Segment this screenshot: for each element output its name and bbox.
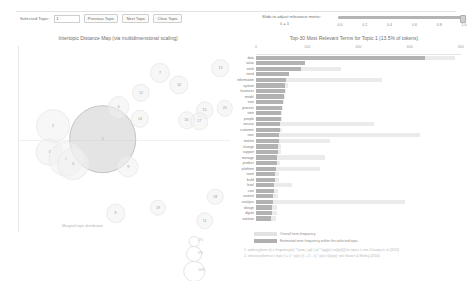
term-label[interactable]: design bbox=[234, 206, 254, 210]
topic-frequency-bar bbox=[256, 56, 425, 60]
topic-frequency-bar bbox=[256, 144, 278, 148]
topic-bubble-label-7: 7 bbox=[159, 71, 161, 75]
topic-frequency-bar bbox=[256, 83, 285, 87]
size-legend-label-10%: 10% bbox=[198, 268, 205, 272]
topic-frequency-bar bbox=[256, 106, 282, 110]
term-label[interactable]: customer bbox=[234, 128, 254, 132]
next-topic-button[interactable]: Next Topic bbox=[122, 14, 149, 23]
bar-axis-tick: 800 bbox=[458, 45, 464, 49]
topic-controls: Selected Topic: Previous Topic Next Topi… bbox=[20, 14, 182, 23]
term-label[interactable]: system bbox=[234, 84, 254, 88]
slider-tick: 0.0 bbox=[338, 23, 343, 27]
term-label[interactable]: model bbox=[234, 95, 254, 99]
slider-tick: 0.2 bbox=[362, 23, 367, 27]
term-label[interactable]: user bbox=[234, 133, 254, 137]
footnote-relevance: 2. relevance(term w | topic t) = λ * p(w… bbox=[244, 254, 380, 258]
topic-frequency-bar bbox=[256, 161, 277, 165]
term-label[interactable]: team bbox=[234, 172, 254, 176]
term-label[interactable]: solution bbox=[234, 217, 254, 221]
term-label[interactable]: process bbox=[234, 106, 254, 110]
bar-row[interactable]: solution bbox=[234, 216, 472, 222]
term-label[interactable]: service bbox=[234, 122, 254, 126]
topic-frequency-bar bbox=[256, 200, 273, 204]
topic-frequency-bar bbox=[256, 155, 277, 159]
term-label[interactable]: content bbox=[234, 194, 254, 198]
topic-bubble-label-9: 9 bbox=[127, 165, 129, 169]
topic-frequency-bar bbox=[256, 117, 281, 121]
overall-frequency-bar bbox=[256, 133, 420, 137]
topic-bubble-label-2: 2 bbox=[52, 124, 54, 128]
relevance-slider-label: Slide to adjust relevance metric: bbox=[262, 14, 321, 19]
term-label[interactable]: digital bbox=[234, 211, 254, 215]
legend-overall: Overall term frequency bbox=[254, 232, 315, 236]
topic-frequency-label: Estimated term frequency within the sele… bbox=[280, 239, 358, 243]
topic-frequency-bar bbox=[256, 172, 275, 176]
topic-frequency-swatch bbox=[254, 239, 277, 243]
term-label[interactable]: value bbox=[234, 61, 254, 65]
term-label[interactable]: need bbox=[234, 72, 254, 76]
term-label[interactable]: support bbox=[234, 150, 254, 154]
relevance-slider-track[interactable] bbox=[338, 16, 462, 19]
topic-bubble-label-17: 17 bbox=[197, 119, 201, 123]
term-label[interactable]: business bbox=[234, 89, 254, 93]
slider-tick-labels: 0.00.20.40.60.81.0 bbox=[336, 23, 464, 31]
topic-bubble-label-10: 10 bbox=[177, 83, 181, 87]
topic-frequency-bar bbox=[256, 100, 283, 104]
topic-frequency-bar bbox=[256, 183, 274, 187]
slider-tick: 0.6 bbox=[412, 23, 417, 27]
topic-bubble-label-14: 14 bbox=[138, 117, 142, 121]
topic-bubble-label-12: 12 bbox=[139, 91, 143, 95]
term-label[interactable]: change bbox=[234, 145, 254, 149]
intertopic-map-title: Intertopic Distance Map (via multidimens… bbox=[0, 35, 236, 41]
topic-bubble-label-1: 1 bbox=[102, 137, 104, 141]
topic-frequency-bar bbox=[256, 194, 273, 198]
marginal-topic-distribution-label: Marginal topic distribution bbox=[62, 224, 103, 228]
top-terms-barchart: 0200400600800 datavalueworkneedinformati… bbox=[234, 44, 472, 234]
topic-frequency-bar bbox=[256, 94, 284, 98]
bar-axis-tick: 200 bbox=[304, 45, 310, 49]
overall-frequency-label: Overall term frequency bbox=[280, 232, 315, 236]
topic-frequency-bar bbox=[256, 78, 286, 82]
topic-frequency-bar bbox=[256, 67, 301, 71]
term-label[interactable]: analysis bbox=[234, 200, 254, 204]
term-label[interactable]: work bbox=[234, 67, 254, 71]
topic-bubble-label-13: 13 bbox=[219, 66, 223, 70]
topic-frequency-bar bbox=[256, 128, 280, 132]
topic-frequency-bar bbox=[256, 89, 285, 93]
slider-tick: 0.8 bbox=[437, 23, 442, 27]
term-label[interactable]: product bbox=[234, 161, 254, 165]
map-y-axis bbox=[18, 46, 19, 232]
term-label[interactable]: build bbox=[234, 178, 254, 182]
term-label[interactable]: information bbox=[234, 78, 254, 82]
size-legend-label-2%: 2% bbox=[198, 238, 203, 242]
term-label[interactable]: market bbox=[234, 139, 254, 143]
topic-frequency-bar bbox=[256, 178, 275, 182]
topic-frequency-bar bbox=[256, 150, 278, 154]
relevance-slider-group: Slide to adjust relevance metric: λ = 1 … bbox=[262, 12, 468, 36]
intertopic-distance-map: 1234567891011121314151617181920 Marginal… bbox=[14, 44, 232, 240]
topic-frequency-bar bbox=[256, 133, 279, 137]
selected-topic-input[interactable] bbox=[54, 15, 80, 23]
clear-topic-button[interactable]: Clear Topic bbox=[153, 14, 181, 23]
bar-rows: datavalueworkneedinformationsystembusine… bbox=[234, 55, 472, 221]
term-label[interactable]: new bbox=[234, 100, 254, 104]
bar-axis-tick: 400 bbox=[356, 45, 362, 49]
topic-bubble-label-20: 20 bbox=[223, 106, 227, 110]
ldavis-app: Selected Topic: Previous Topic Next Topi… bbox=[0, 0, 472, 281]
topic-frequency-bar bbox=[256, 167, 276, 171]
term-label[interactable]: time bbox=[234, 111, 254, 115]
topic-bubble-label-18: 18 bbox=[213, 195, 217, 199]
term-label[interactable]: platform bbox=[234, 167, 254, 171]
previous-topic-button[interactable]: Previous Topic bbox=[84, 14, 119, 23]
slider-handle[interactable] bbox=[460, 15, 466, 23]
topic-bubble-label-8: 8 bbox=[115, 211, 117, 215]
term-label[interactable]: people bbox=[234, 117, 254, 121]
term-label[interactable]: level bbox=[234, 183, 254, 187]
term-label[interactable]: cost bbox=[234, 189, 254, 193]
topic-bubble-label-15: 15 bbox=[203, 108, 207, 112]
term-label[interactable]: data bbox=[234, 56, 254, 60]
overall-frequency-bar bbox=[256, 200, 405, 204]
term-label[interactable]: manage bbox=[234, 156, 254, 160]
topic-frequency-bar bbox=[256, 139, 279, 143]
topic-frequency-bar bbox=[256, 122, 280, 126]
